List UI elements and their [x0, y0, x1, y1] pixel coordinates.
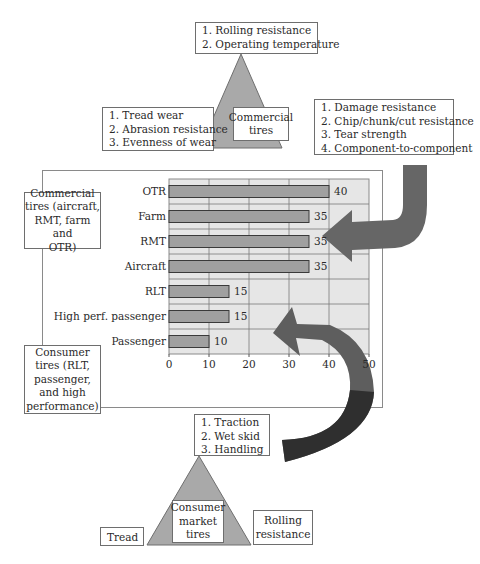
- commercial-left-item: 1. Tread wear: [109, 109, 207, 123]
- commercial-top-item: 2. Operating temperature: [202, 38, 311, 52]
- commercial-top-box: 1. Rolling resistance 2. Operating tempe…: [195, 22, 318, 54]
- label-line: resistance: [256, 528, 311, 542]
- bar-aircraft: [169, 261, 309, 273]
- bar-passenger: [169, 336, 209, 348]
- category-label: RMT: [140, 235, 166, 247]
- commercial-right-item: 2. Chip/chunk/cut resistance: [321, 115, 447, 129]
- chart-svg: [0, 0, 480, 564]
- label-line: Rolling: [264, 514, 302, 528]
- consumer-left-box: Tread: [100, 527, 144, 546]
- x-tick-label: 0: [157, 358, 181, 370]
- bar-rmt: [169, 236, 309, 248]
- consumer-group-label: Consumer tires (RLT, passenger, and high…: [24, 345, 101, 414]
- bar-farm: [169, 211, 309, 223]
- label-line: OTR): [49, 241, 77, 255]
- label-line: Commercial: [30, 187, 94, 201]
- label-line: performance): [26, 400, 98, 414]
- label-line: Commercial: [229, 111, 293, 125]
- consumer-right-box: Rolling resistance: [253, 510, 313, 545]
- bar-otr: [169, 186, 329, 198]
- label-line: market: [179, 515, 217, 529]
- commercial-right-item: 4. Component-to-component: [321, 142, 447, 156]
- category-label: High perf. passenger: [54, 310, 166, 322]
- category-label: Passenger: [111, 335, 166, 347]
- label-line: Consumer: [171, 501, 225, 515]
- commercial-right-box: 1. Damage resistance 2. Chip/chunk/cut r…: [314, 99, 454, 155]
- label-line: tires (aircraft,: [25, 200, 100, 214]
- category-label: Aircraft: [125, 260, 166, 272]
- value-label: 35: [314, 260, 327, 272]
- commercial-left-item: 2. Abrasion resistance: [109, 123, 207, 137]
- label-line: RMT, farm and: [25, 214, 100, 241]
- label-line: tires: [249, 124, 273, 138]
- commercial-triangle-label: Commercial tires: [233, 107, 289, 141]
- commercial-top-item: 1. Rolling resistance: [202, 24, 311, 38]
- label-line: tires (RLT,: [35, 359, 89, 373]
- value-label: 15: [234, 310, 247, 322]
- label-line: and high: [39, 386, 86, 400]
- category-label: Farm: [138, 210, 166, 222]
- consumer-top-item: 1. Traction: [201, 416, 263, 430]
- bar-high-perf-passenger: [169, 311, 229, 323]
- category-label: RLT: [145, 285, 166, 297]
- label-line: Consumer: [35, 346, 89, 360]
- bar-rlt: [169, 286, 229, 298]
- label-line: tires: [186, 528, 210, 542]
- x-tick-label: 20: [237, 358, 261, 370]
- label-line: passenger,: [34, 373, 91, 387]
- commercial-left-item: 3. Evenness of wear: [109, 136, 207, 150]
- consumer-top-box: 1. Traction 2. Wet skid 3. Handling: [194, 414, 270, 456]
- consumer-top-item: 3. Handling: [201, 443, 263, 457]
- x-tick-label: 40: [317, 358, 341, 370]
- value-label: 40: [334, 185, 347, 197]
- value-label: 35: [314, 210, 327, 222]
- consumer-left-item: Tread: [107, 529, 137, 545]
- consumer-triangle-label: Consumer market tires: [172, 500, 224, 543]
- x-tick-label: 50: [357, 358, 381, 370]
- consumer-top-item: 2. Wet skid: [201, 430, 263, 444]
- category-label: OTR: [142, 185, 166, 197]
- x-tick-label: 10: [197, 358, 221, 370]
- commercial-right-item: 3. Tear strength: [321, 128, 447, 142]
- commercial-group-label: Commercial tires (aircraft, RMT, farm an…: [24, 192, 101, 249]
- commercial-left-box: 1. Tread wear 2. Abrasion resistance 3. …: [102, 107, 214, 151]
- value-label: 10: [214, 335, 227, 347]
- value-label: 15: [234, 285, 247, 297]
- value-label: 35: [314, 235, 327, 247]
- x-tick-label: 30: [277, 358, 301, 370]
- arrow-shadow: [282, 390, 374, 462]
- commercial-right-item: 1. Damage resistance: [321, 101, 447, 115]
